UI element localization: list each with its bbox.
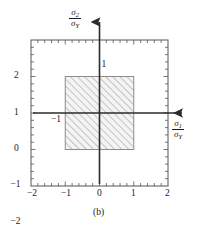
- x-axis-label-denominator: σY: [172, 130, 184, 139]
- x-tick-label-2: 2: [165, 189, 170, 199]
- x-axis-label-numerator: σ1: [172, 119, 184, 128]
- x-tick-label-neg2: −2: [27, 189, 37, 199]
- figure-caption: (b): [93, 208, 104, 218]
- y-tick-label-1: 1: [14, 108, 19, 118]
- annotation-positive-one: 1: [102, 60, 107, 70]
- annotation-negative-one: −1: [51, 115, 61, 125]
- x-tick-label-1: 1: [131, 189, 136, 199]
- x-tick-label-0: 0: [97, 189, 102, 199]
- x-axis-label: σ1 σY: [172, 119, 184, 140]
- y-axis-label-numerator: σ2: [69, 8, 81, 17]
- y-tick-label-0: 0: [14, 144, 19, 154]
- y-tick-label-neg2: −2: [11, 217, 21, 227]
- y-axis-label-denominator: σY: [69, 19, 81, 28]
- y-axis-label: σ2 σY: [69, 8, 81, 29]
- y-tick-label-neg1: −1: [11, 180, 21, 190]
- y-tick-label-2: 2: [14, 71, 19, 81]
- x-tick-label-neg1: −1: [61, 189, 71, 199]
- figure-container: 2 1 0 −1 −2 −2 −1 0 1 2 1 −1 σ2 σY σ1 σY…: [0, 0, 207, 228]
